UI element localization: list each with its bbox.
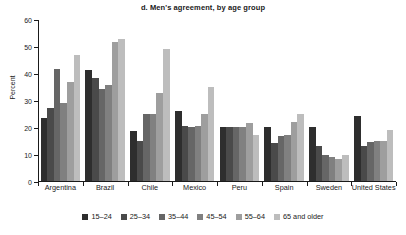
y-tick-label: 40 (24, 71, 32, 78)
bar-set (309, 20, 348, 181)
legend-swatch-icon (197, 214, 203, 220)
legend-label: 15–24 (91, 212, 111, 221)
x-axis-labels: ArgentinaBrazilChileMexicoPeruSpainSwede… (38, 184, 396, 192)
bar (118, 39, 125, 181)
y-tick-label: 0 (28, 179, 32, 186)
bar (208, 87, 215, 182)
legend-item: 45–54 (197, 212, 226, 221)
y-tick-label: 50 (24, 44, 32, 51)
chart-figure: d. Men's agreement, by age group Percent… (0, 0, 406, 235)
legend-label: 45–54 (206, 212, 226, 221)
chart-title: d. Men's agreement, by age group (0, 3, 406, 12)
y-tick-label: 30 (24, 98, 32, 105)
bar-set (220, 20, 259, 181)
legend-label: 65 and older (283, 212, 324, 221)
bar-group (38, 20, 83, 181)
bar (342, 155, 349, 181)
bar-group (128, 20, 173, 181)
bar (163, 49, 170, 181)
legend-item: 65 and older (274, 212, 324, 221)
y-axis-label: Percent (9, 58, 16, 118)
bar (74, 55, 81, 181)
x-axis-category-label: Sweden (307, 184, 352, 192)
x-axis-category-label: Peru (217, 184, 262, 192)
x-axis-category-label: United States (351, 184, 396, 192)
x-axis-category-label: Spain (262, 184, 307, 192)
x-axis-category-label: Chile (128, 184, 173, 192)
bar (297, 114, 304, 182)
bar-group (217, 20, 262, 181)
y-tick-label: 20 (24, 125, 32, 132)
bar (253, 135, 260, 181)
bar-groups (38, 20, 396, 181)
bar-set (175, 20, 214, 181)
legend-label: 55–64 (245, 212, 265, 221)
legend-item: 25–34 (121, 212, 150, 221)
x-axis-category-label: Argentina (38, 184, 83, 192)
bar-group (172, 20, 217, 181)
bar-set (130, 20, 169, 181)
plot-area: 0102030405060 (38, 20, 396, 182)
x-tick-mark (396, 182, 397, 186)
legend-item: 15–24 (82, 212, 111, 221)
legend-swatch-icon (159, 214, 165, 220)
bar-set (85, 20, 124, 181)
bar (387, 130, 394, 181)
legend-swatch-icon (274, 214, 280, 220)
legend-label: 35–44 (168, 212, 188, 221)
bar-group (307, 20, 352, 181)
chart-legend: 15–2425–3435–4445–5455–6465 and older (0, 212, 406, 221)
bar-group (83, 20, 128, 181)
legend-swatch-icon (82, 214, 88, 220)
legend-label: 25–34 (130, 212, 150, 221)
bar-set (264, 20, 303, 181)
bar-group (351, 20, 396, 181)
x-axis-category-label: Brazil (83, 184, 128, 192)
legend-item: 35–44 (159, 212, 188, 221)
bar-set (41, 20, 80, 181)
bar-group (262, 20, 307, 181)
y-tick-label: 60 (24, 17, 32, 24)
bar-set (354, 20, 393, 181)
x-axis-category-label: Mexico (172, 184, 217, 192)
legend-swatch-icon (236, 214, 242, 220)
y-tick-label: 10 (24, 152, 32, 159)
legend-item: 55–64 (236, 212, 265, 221)
legend-swatch-icon (121, 214, 127, 220)
